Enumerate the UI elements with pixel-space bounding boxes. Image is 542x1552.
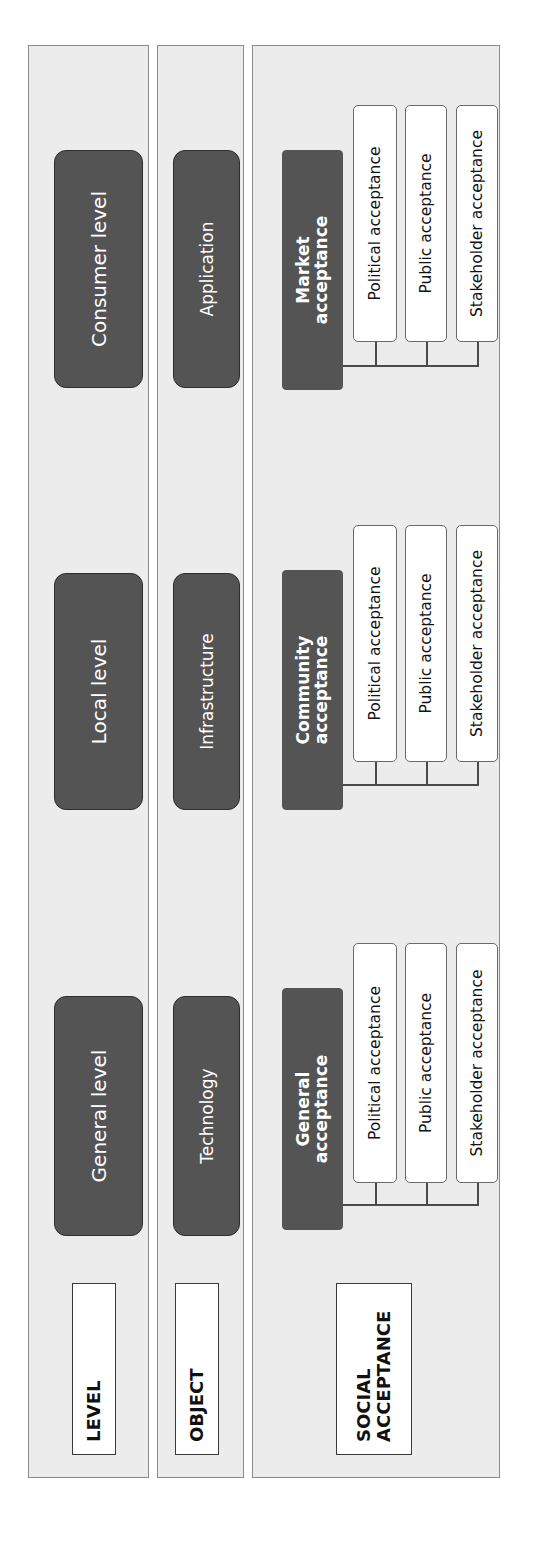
general-stakeholder-text: Stakeholder acceptance [468, 969, 486, 1156]
object-box-application: Application [173, 150, 240, 388]
community-public-acceptance: Public acceptance [405, 525, 447, 762]
social-acceptance-diagram: LEVEL General level Local level Consumer… [0, 0, 542, 1552]
level-box-local: Local level [54, 573, 143, 810]
general-acceptance-title-1: General [295, 1055, 313, 1164]
community-stakeholder-text: Stakeholder acceptance [468, 550, 486, 737]
general-acceptance-title-2: acceptance [313, 1055, 331, 1164]
object-label-text: OBJECT [187, 1368, 207, 1442]
level-box-consumer: Consumer level [54, 150, 143, 388]
general-political-acceptance: Political acceptance [353, 943, 397, 1183]
level-box-general: General level [54, 996, 143, 1236]
market-acceptance-title-1: Market [295, 216, 313, 325]
level-box-local-text: Local level [87, 639, 111, 745]
level-box-general-text: General level [87, 1050, 111, 1183]
market-stakeholder-acceptance: Stakeholder acceptance [456, 105, 498, 342]
general-connector-stub-3 [477, 1183, 479, 1206]
community-connector-stub-1 [375, 762, 377, 786]
market-political-text: Political acceptance [366, 147, 384, 301]
market-acceptance-box: Market acceptance [282, 150, 343, 390]
general-connector-stub-2 [426, 1183, 428, 1206]
general-political-text: Political acceptance [366, 986, 384, 1140]
community-stakeholder-acceptance: Stakeholder acceptance [456, 525, 498, 762]
level-row-label: LEVEL [72, 1283, 116, 1455]
general-acceptance-box: General acceptance [282, 988, 343, 1230]
community-connector-horizontal [343, 785, 477, 787]
community-political-acceptance: Political acceptance [353, 525, 397, 762]
community-public-text: Public acceptance [417, 573, 435, 713]
market-connector-stub-1 [375, 342, 377, 367]
community-political-text: Political acceptance [366, 567, 384, 721]
market-political-acceptance: Political acceptance [353, 105, 397, 342]
level-label-text: LEVEL [84, 1381, 104, 1442]
level-box-consumer-text: Consumer level [87, 191, 111, 347]
social-label-line2: ACCEPTANCE [374, 1311, 394, 1442]
social-acceptance-row-label: SOCIAL ACCEPTANCE [336, 1283, 412, 1455]
market-public-acceptance: Public acceptance [405, 105, 447, 342]
general-connector-stub-1 [375, 1183, 377, 1206]
market-stakeholder-text: Stakeholder acceptance [468, 130, 486, 317]
market-connector-stub-3 [477, 342, 479, 367]
object-row-label: OBJECT [175, 1283, 219, 1455]
general-stakeholder-acceptance: Stakeholder acceptance [456, 943, 498, 1183]
market-connector-stub-2 [426, 342, 428, 367]
market-public-text: Public acceptance [417, 153, 435, 293]
community-acceptance-title-2: acceptance [313, 636, 331, 745]
social-label-line1: SOCIAL [354, 1311, 374, 1442]
market-connector-horizontal [343, 366, 477, 368]
market-acceptance-title-2: acceptance [313, 216, 331, 325]
community-connector-stub-2 [426, 762, 428, 786]
object-box-technology-text: Technology [197, 1068, 217, 1163]
object-box-infrastructure-text: Infrastructure [197, 633, 217, 749]
community-acceptance-box: Community acceptance [282, 570, 343, 810]
object-box-technology: Technology [173, 996, 240, 1236]
community-connector-stub-3 [477, 762, 479, 786]
general-connector-horizontal [343, 1205, 477, 1207]
general-public-acceptance: Public acceptance [405, 943, 447, 1183]
object-box-application-text: Application [197, 222, 217, 317]
object-box-infrastructure: Infrastructure [173, 573, 240, 810]
community-acceptance-title-1: Community [295, 636, 313, 745]
general-public-text: Public acceptance [417, 993, 435, 1133]
